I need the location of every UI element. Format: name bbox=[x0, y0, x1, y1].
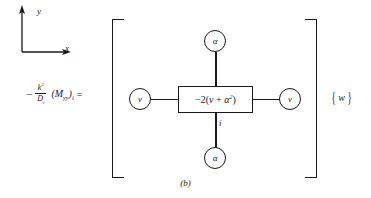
edge-left bbox=[151, 99, 179, 101]
numerator-exponent: 2 bbox=[41, 82, 43, 87]
node-left-label: ν bbox=[138, 94, 142, 104]
center-plus-sign: + bbox=[214, 95, 225, 106]
equation-left-hand-side: − k2 Di (Myy)i = bbox=[26, 83, 82, 105]
stencil-index-label: i bbox=[219, 118, 222, 128]
vector-open-brace: { bbox=[331, 90, 335, 105]
figure-canvas: y x − k2 Di (Myy)i = α α ν ν −2(ν + α2) … bbox=[0, 0, 371, 198]
bracket-left bbox=[112, 19, 124, 178]
vector-close-brace: } bbox=[347, 90, 351, 105]
bracket-right bbox=[305, 19, 317, 178]
equation-fraction: k2 Di bbox=[35, 83, 46, 105]
figure-caption: (b) bbox=[0, 178, 371, 188]
equation-minus-sign: − bbox=[26, 88, 32, 100]
moment-term: (Myy)i bbox=[51, 88, 73, 101]
node-right: ν bbox=[279, 88, 301, 110]
denominator-subscript: i bbox=[43, 99, 44, 104]
edge-right bbox=[252, 99, 280, 101]
axis-label-x: x bbox=[65, 44, 69, 53]
axis-label-y: y bbox=[37, 7, 41, 16]
node-right-label: ν bbox=[288, 94, 292, 104]
axis-arrows-icon bbox=[8, 2, 88, 72]
node-left: ν bbox=[129, 88, 151, 110]
axis-indicator: y x bbox=[8, 2, 88, 72]
edge-top bbox=[215, 52, 217, 87]
fraction-numerator: k2 bbox=[36, 83, 46, 93]
node-bottom-label: α bbox=[213, 153, 218, 163]
moment-open: (M bbox=[51, 88, 63, 99]
center-box-expression: −2(ν + α2) bbox=[195, 93, 236, 105]
vector-w: { w } bbox=[330, 90, 353, 105]
node-top-label: α bbox=[213, 36, 218, 46]
moment-index: i bbox=[72, 94, 74, 101]
vector-symbol: w bbox=[338, 92, 345, 103]
center-coefficient-box: −2(ν + α2) bbox=[178, 86, 253, 113]
node-top: α bbox=[204, 30, 226, 52]
center-close-paren: ) bbox=[233, 95, 236, 106]
edge-bottom bbox=[215, 112, 217, 148]
fraction-denominator: Di bbox=[35, 94, 46, 106]
node-bottom: α bbox=[204, 147, 226, 169]
equals-sign: = bbox=[77, 89, 83, 100]
center-coefficient: −2( bbox=[195, 95, 209, 106]
